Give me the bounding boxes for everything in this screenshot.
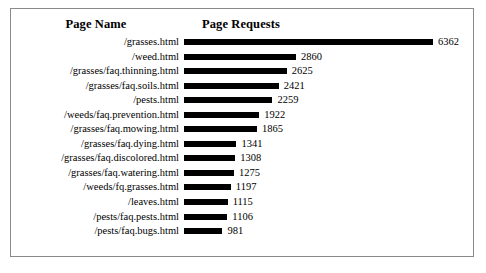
bar xyxy=(184,112,259,118)
row-label-page-name: /weeds/faq.prevention.html xyxy=(11,108,179,123)
bar-area: 6362 xyxy=(184,35,473,50)
bar xyxy=(184,199,228,205)
bar-value-label: 1197 xyxy=(236,180,257,195)
chart-row: /pests/faq.pests.html1106 xyxy=(11,210,473,225)
bar xyxy=(184,97,272,103)
chart-row: /pests.html2259 xyxy=(11,93,473,108)
row-label-page-name: /leaves.html xyxy=(11,195,179,210)
chart-row: /grasses/faq.dying.html1341 xyxy=(11,137,473,152)
bar xyxy=(184,68,287,74)
bar-area: 2860 xyxy=(184,50,473,65)
bar xyxy=(184,228,222,234)
bar xyxy=(184,184,231,190)
bar-value-label: 2625 xyxy=(292,64,313,79)
bar-value-label: 2860 xyxy=(301,50,322,65)
row-label-page-name: /grasses/faq.soils.html xyxy=(11,79,179,94)
row-label-page-name: /grasses.html xyxy=(11,35,179,50)
row-label-page-name: /pests.html xyxy=(11,93,179,108)
bar-value-label: 1341 xyxy=(241,137,262,152)
page-requests-chart-panel: Page Name Page Requests /grasses.html636… xyxy=(10,8,474,257)
bar-value-label: 981 xyxy=(227,224,243,239)
chart-row: /leaves.html1115 xyxy=(11,195,473,210)
bar xyxy=(184,83,279,89)
chart-row: /grasses/faq.discolored.html1308 xyxy=(11,151,473,166)
chart-row: /grasses/faq.mowing.html1865 xyxy=(11,122,473,137)
bar xyxy=(184,155,235,161)
chart-row: /grasses/faq.thinning.html2625 xyxy=(11,64,473,79)
bar xyxy=(184,126,257,132)
row-label-page-name: /grasses/faq.mowing.html xyxy=(11,122,179,137)
row-label-page-name: /grasses/faq.discolored.html xyxy=(11,151,179,166)
bar xyxy=(184,39,433,45)
bar-area: 2421 xyxy=(184,79,473,94)
bar-area: 1275 xyxy=(184,166,473,181)
chart-row: /grasses/faq.watering.html1275 xyxy=(11,166,473,181)
chart-header-row: Page Name Page Requests xyxy=(11,17,473,33)
bar-value-label: 6362 xyxy=(438,35,459,50)
chart-rows: /grasses.html6362/weed.html2860/grasses/… xyxy=(11,35,473,239)
bar-value-label: 1922 xyxy=(264,108,285,123)
bar-area: 1922 xyxy=(184,108,473,123)
row-label-page-name: /grasses/faq.dying.html xyxy=(11,137,179,152)
bar-value-label: 1106 xyxy=(232,210,253,225)
bar xyxy=(184,170,234,176)
bar xyxy=(184,214,227,220)
chart-row: /grasses.html6362 xyxy=(11,35,473,50)
bar xyxy=(184,54,296,60)
chart-row: /grasses/faq.soils.html2421 xyxy=(11,79,473,94)
bar-area: 1308 xyxy=(184,151,473,166)
row-label-page-name: /pests/faq.pests.html xyxy=(11,210,179,225)
bar-area: 2625 xyxy=(184,64,473,79)
bar-area: 1106 xyxy=(184,210,473,225)
row-label-page-name: /grasses/faq.thinning.html xyxy=(11,64,179,79)
row-label-page-name: /pests/faq.bugs.html xyxy=(11,224,179,239)
bar-area: 2259 xyxy=(184,93,473,108)
bar xyxy=(184,141,236,147)
column-header-page-requests: Page Requests xyxy=(186,17,296,32)
chart-row: /weeds/faq.prevention.html1922 xyxy=(11,108,473,123)
bar-area: 1341 xyxy=(184,137,473,152)
bar-value-label: 1865 xyxy=(262,122,283,137)
row-label-page-name: /weed.html xyxy=(11,50,179,65)
bar-area: 1197 xyxy=(184,180,473,195)
chart-row: /weeds/fq.grasses.html1197 xyxy=(11,180,473,195)
bar-area: 1865 xyxy=(184,122,473,137)
bar-area: 1115 xyxy=(184,195,473,210)
row-label-page-name: /grasses/faq.watering.html xyxy=(11,166,179,181)
bar-value-label: 2259 xyxy=(277,93,298,108)
chart-row: /pests/faq.bugs.html981 xyxy=(11,224,473,239)
bar-value-label: 2421 xyxy=(284,79,305,94)
bar-value-label: 1275 xyxy=(239,166,260,181)
row-label-page-name: /weeds/fq.grasses.html xyxy=(11,180,179,195)
bar-value-label: 1308 xyxy=(240,151,261,166)
bar-area: 981 xyxy=(184,224,473,239)
bar-value-label: 1115 xyxy=(233,195,253,210)
column-header-page-name: Page Name xyxy=(11,17,181,32)
chart-row: /weed.html2860 xyxy=(11,50,473,65)
